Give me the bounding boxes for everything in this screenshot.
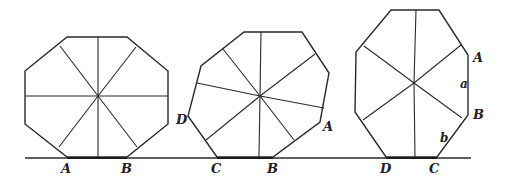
vertex-label-A: A	[321, 119, 333, 134]
radial-spoke	[364, 46, 414, 83]
radial-spoke	[260, 96, 324, 108]
radial-spoke	[98, 47, 136, 96]
radial-spoke	[414, 83, 462, 118]
vertex-label-D: D	[379, 161, 392, 176]
elongated-octagon: AaBbDC	[355, 10, 484, 176]
octagon-rolling-diagram: ABDACBAaBbDC	[0, 0, 505, 184]
vertex-label-B: B	[120, 161, 132, 176]
radial-spoke	[197, 83, 260, 96]
octagon-outline	[355, 10, 468, 157]
radial-spoke	[260, 32, 261, 96]
octagon-outline	[25, 37, 168, 157]
radial-spoke	[414, 45, 461, 83]
vertex-label-A: A	[59, 161, 71, 176]
radial-spoke	[414, 10, 416, 83]
radial-spoke	[59, 96, 98, 147]
vertex-label-B: B	[266, 161, 278, 176]
radial-spoke	[260, 96, 294, 140]
radial-spoke	[98, 96, 137, 147]
vertex-label-D: D	[175, 112, 188, 127]
irregular-octagon: DACB	[175, 32, 333, 176]
vertex-label-C: C	[211, 161, 222, 176]
diagram-canvas: ABDACBAaBbDC	[0, 0, 505, 184]
shapes-group: ABDACBAaBbDC	[25, 10, 484, 176]
regular-octagon: AB	[25, 37, 168, 176]
vertex-label-a: a	[460, 77, 468, 91]
vertex-label-C: C	[429, 161, 440, 176]
radial-spoke	[363, 83, 414, 120]
vertex-label-B: B	[472, 107, 484, 122]
radial-spoke	[260, 54, 315, 96]
vertex-label-A: A	[471, 50, 483, 65]
radial-spoke	[259, 96, 260, 157]
vertex-label-b: b	[440, 131, 448, 145]
radial-spoke	[206, 96, 260, 140]
radial-spoke	[414, 83, 415, 157]
radial-spoke	[60, 46, 98, 96]
